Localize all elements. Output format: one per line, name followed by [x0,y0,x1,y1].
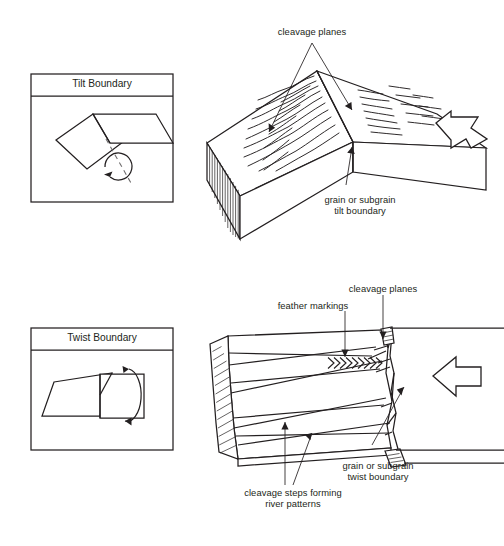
tilt-schematic-box [31,74,173,202]
twist-steps-label-line2: river patterns [265,498,320,510]
twist-schematic-box [31,328,173,450]
twist-reference-lines [390,328,504,463]
twist-panel-graphics [0,273,504,546]
twist-cleavage-planes-label: cleavage planes [349,283,418,295]
twist-box-title: Twist Boundary [67,332,137,343]
tilt-block-right-front-face [353,142,486,190]
twist-boundary-label-line2: twist boundary [347,471,408,483]
tilt-boundary-label-line2: tilt boundary [334,205,386,217]
tilt-boundary-label-line1: grain or subgrain [324,194,395,206]
figure-root: Tilt Boundary cleavage planes grain or s… [0,0,504,546]
tilt-boundary-panel: Tilt Boundary cleavage planes grain or s… [0,0,504,273]
twist-grain-back [100,374,144,418]
twist-steps-label-line1: cleavage steps forming [244,487,342,499]
twist-boundary-panel: Twist Boundary cleavage planes feather m… [0,273,504,546]
tilt-panel-graphics [0,0,504,273]
twist-feather-markings-label: feather markings [278,300,349,312]
twist-3d-block [210,327,504,467]
tilt-cleavage-planes-label: cleavage planes [278,26,347,38]
twist-boundary-label-line1: grain or subgrain [342,460,413,472]
twist-load-arrow-icon [433,357,481,396]
figure-bottom-caption [0,539,504,546]
tilt-box-title: Tilt Boundary [72,78,132,89]
